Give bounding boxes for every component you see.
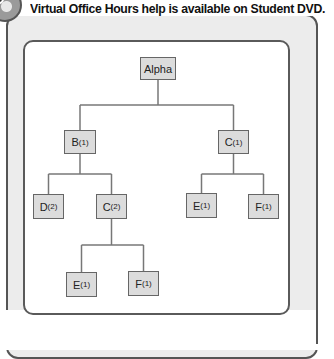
- tree-node-e1-left: E(1): [66, 272, 97, 297]
- tree-node-f1-left: F(1): [128, 271, 159, 296]
- node-subscript: (2): [48, 202, 58, 211]
- tree-node-c2: C(2): [96, 194, 127, 219]
- node-label: F: [255, 201, 262, 213]
- tree-node-f1-right: F(1): [248, 194, 279, 219]
- node-subscript: (1): [142, 279, 152, 288]
- node-subscript: (1): [262, 202, 272, 211]
- node-label: F: [135, 278, 142, 290]
- tree-node-e1-right: E(1): [186, 193, 217, 218]
- node-subscript: (1): [79, 138, 89, 147]
- node-label: E: [73, 279, 80, 291]
- node-subscript: (1): [200, 201, 210, 210]
- tree-node-d2: D(2): [33, 194, 64, 219]
- tree-node-alpha: Alpha: [140, 57, 176, 80]
- node-label: E: [193, 200, 200, 212]
- node-subscript: (2): [111, 202, 121, 211]
- node-subscript: (1): [80, 280, 90, 289]
- node-label: D: [40, 201, 48, 213]
- node-label: B: [71, 136, 78, 148]
- tree-node-c1: C(1): [218, 130, 249, 154]
- node-subscript: (1): [233, 138, 243, 147]
- node-label: C: [103, 201, 111, 213]
- node-label: C: [225, 136, 233, 148]
- tree-node-b1: B(1): [64, 130, 96, 154]
- node-label: Alpha: [144, 63, 172, 75]
